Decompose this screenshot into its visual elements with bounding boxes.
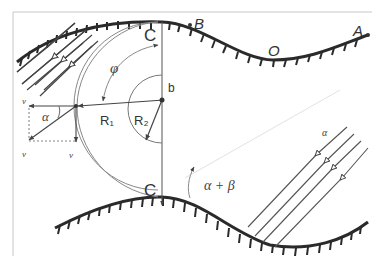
- radius-r1: [78, 100, 164, 106]
- label-angle-alpha-beta: α + β: [204, 178, 235, 193]
- guide-line: [185, 90, 340, 178]
- label-point-b: B: [194, 15, 204, 32]
- frame: [13, 12, 372, 256]
- label-point-c-bottom: C: [144, 181, 156, 200]
- incident-rays-left: [17, 23, 98, 96]
- arc-alpha-beta: [188, 167, 194, 198]
- center-point: [160, 98, 165, 103]
- label-point-a: A: [352, 22, 363, 39]
- arc-r2: [128, 75, 162, 143]
- label-length-b: b: [168, 81, 175, 95]
- bottom-wall: [55, 197, 368, 256]
- label-radius-r2: R₂: [134, 113, 148, 128]
- label-velocity-y: v: [69, 150, 73, 160]
- diagram-canvas: B A O C C φ b R₁ R₂ α α + β α v v v: [0, 0, 381, 266]
- label-point-c-top: C: [144, 26, 156, 45]
- label-radius-r1: R₁: [100, 113, 114, 128]
- label-velocity-x: v: [22, 96, 26, 106]
- label-wave-right: α: [322, 127, 328, 138]
- label-angle-alpha: α: [42, 109, 50, 124]
- label-point-o: O: [268, 42, 280, 59]
- incident-rays-right: [248, 127, 368, 247]
- velocity-decomposition: [29, 106, 76, 142]
- label-velocity-total: v: [22, 149, 26, 159]
- label-angle-phi: φ: [110, 60, 118, 76]
